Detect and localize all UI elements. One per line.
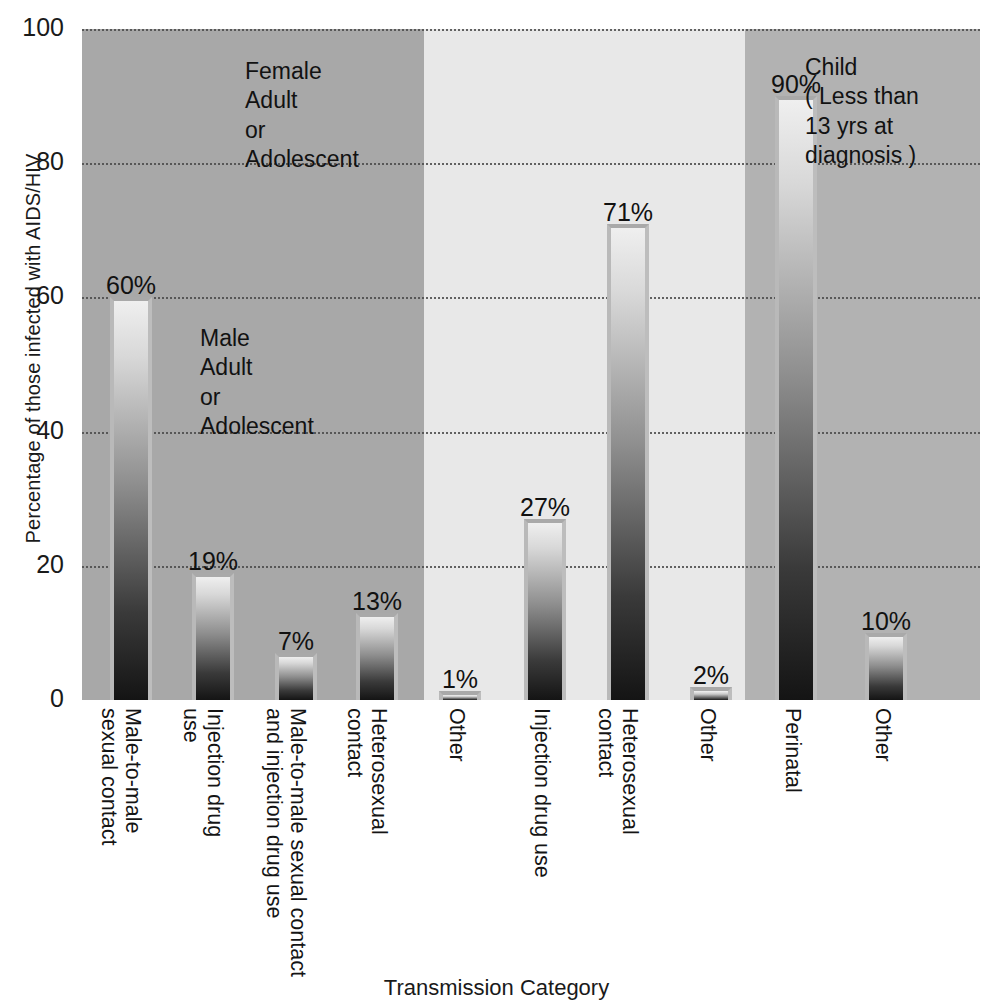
bar-value-label: 7% <box>278 629 314 654</box>
bar: 2% <box>690 687 732 700</box>
group-annotation: Male Adult or Adolescent <box>200 324 314 442</box>
x-axis-label: Perinatal <box>781 708 805 793</box>
group-annotation: Female Adult or Adolescent <box>245 57 359 175</box>
bar: 1% <box>439 691 481 700</box>
bar-value-label: 13% <box>352 589 402 614</box>
x-axis-title: Transmission Category <box>0 975 993 1001</box>
x-axis-label: Male-to-male sexual contact and injectio… <box>262 708 310 977</box>
bar: 27% <box>524 519 566 700</box>
x-axis-label: Other <box>871 708 895 762</box>
y-axis-tick-labels: 020406080100 <box>0 29 72 700</box>
y-tick-label-60: 60 <box>0 283 64 308</box>
x-axis-label: Other <box>696 708 720 762</box>
bar: 7% <box>275 653 317 700</box>
plot-area: 60%19%7%13%1%27%71%2%90%10% Male Adult o… <box>82 29 980 700</box>
bar-value-label: 27% <box>520 495 570 520</box>
y-tick-label-0: 0 <box>0 686 64 711</box>
bar-value-label: 10% <box>861 609 911 634</box>
gridline-100 <box>82 29 980 31</box>
bar-value-label: 71% <box>603 200 653 225</box>
bar: 13% <box>356 613 398 700</box>
y-tick-label-100: 100 <box>0 15 64 40</box>
x-axis-label: Heterosexual contact <box>594 708 642 835</box>
y-tick-label-80: 80 <box>0 149 64 174</box>
x-axis-label: Injection drug use <box>179 708 227 837</box>
x-axis-label: Heterosexual contact <box>343 708 391 835</box>
x-axis-label: Male-to-male sexual contact <box>97 708 145 845</box>
group-panel-female-adult <box>424 29 745 700</box>
gridline-60 <box>82 297 980 299</box>
bar: 19% <box>192 573 234 700</box>
bar: 71% <box>607 224 649 700</box>
group-annotation: Child ( Less than 13 yrs at diagnosis ) <box>805 53 919 171</box>
bar-chart: Percentage of those infected with AIDS/H… <box>0 0 993 1006</box>
bar-value-label: 19% <box>188 549 238 574</box>
x-axis-label: Injection drug use <box>530 708 554 878</box>
bar: 10% <box>865 633 907 700</box>
x-axis-label: Other <box>445 708 469 762</box>
y-tick-label-20: 20 <box>0 552 64 577</box>
bar: 60% <box>110 297 152 700</box>
bar: 90% <box>775 96 817 700</box>
bar-value-label: 60% <box>106 273 156 298</box>
bar-value-label: 1% <box>442 667 478 692</box>
y-tick-label-40: 40 <box>0 418 64 443</box>
bar-value-label: 2% <box>693 663 729 688</box>
